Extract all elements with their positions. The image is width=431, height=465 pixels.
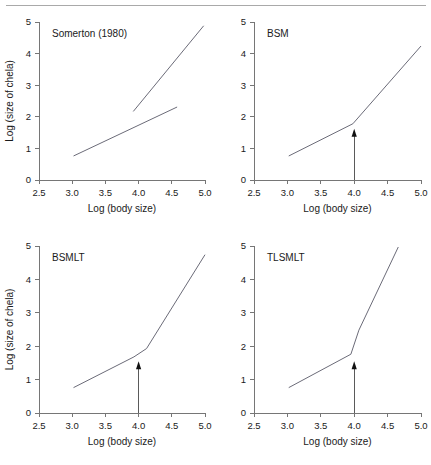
y-tick-label: 1 (241, 143, 246, 154)
axis-lines (39, 246, 205, 413)
x-tick-label: 5.0 (414, 420, 427, 431)
y-tick-label: 4 (26, 274, 31, 285)
y-tick-label: 5 (26, 16, 31, 27)
y-tick-label: 3 (241, 307, 246, 318)
y-tick-label: 3 (241, 80, 246, 91)
x-tick-label: 2.5 (247, 187, 260, 198)
y-axis-title: Log (size of chela) (4, 60, 15, 142)
x-tick-label: 4.0 (348, 420, 361, 431)
x-tick-label: 4.0 (348, 187, 361, 198)
x-tick-label: 5.0 (414, 187, 427, 198)
y-tick-label: 0 (26, 174, 31, 185)
panel-tlsmlt-plot: 0123452.53.03.54.04.55.0Log (body size)T… (215, 232, 431, 465)
x-axis-title: Log (body size) (303, 436, 371, 447)
header-rule (6, 5, 426, 6)
panel-bsmlt-plot: 0123452.53.03.54.04.55.0Log (body size)L… (0, 232, 215, 465)
data-series-line (289, 247, 399, 388)
panel-tlsmlt: 0123452.53.03.54.04.55.0Log (body size)T… (215, 232, 431, 465)
x-tick-label: 4.5 (165, 187, 178, 198)
panel-bsm: 0123452.53.03.54.04.55.0Log (body size)B… (215, 8, 431, 232)
y-tick-label: 1 (26, 374, 31, 385)
x-tick-label: 4.0 (132, 420, 145, 431)
y-tick-label: 3 (26, 80, 31, 91)
x-axis-title: Log (body size) (88, 436, 156, 447)
x-tick-label: 3.5 (99, 420, 112, 431)
axis-lines (254, 22, 421, 180)
x-tick-label: 3.0 (281, 187, 294, 198)
y-tick-label: 0 (241, 407, 246, 418)
panel-somerton-plot: 0123452.53.03.54.04.55.0Log (body size)L… (0, 8, 215, 232)
y-tick-label: 3 (26, 307, 31, 318)
y-tick-label: 4 (241, 48, 246, 59)
y-tick-label: 2 (26, 341, 31, 352)
data-series-line (74, 107, 178, 156)
panel-title: BSMLT (52, 252, 85, 263)
panel-title: BSM (267, 28, 289, 39)
y-tick-label: 0 (26, 407, 31, 418)
breakpoint-arrow-head (352, 361, 357, 369)
x-axis-title: Log (body size) (303, 203, 371, 214)
y-tick-label: 1 (241, 374, 246, 385)
y-tick-label: 5 (241, 240, 246, 251)
x-tick-label: 3.5 (99, 187, 112, 198)
y-tick-label: 4 (26, 48, 31, 59)
panel-bsmlt: 0123452.53.03.54.04.55.0Log (body size)L… (0, 232, 215, 465)
x-tick-label: 4.5 (381, 420, 394, 431)
x-tick-label: 4.0 (132, 187, 145, 198)
panel-bsm-plot: 0123452.53.03.54.04.55.0Log (body size)B… (215, 8, 431, 232)
y-tick-label: 1 (26, 143, 31, 154)
axis-lines (39, 22, 205, 180)
panel-title: TLSMLT (267, 252, 305, 263)
figure-panel-grid: 0123452.53.03.54.04.55.0Log (body size)L… (0, 8, 431, 465)
y-axis-title: Log (size of chela) (4, 289, 15, 371)
x-tick-label: 3.5 (314, 187, 327, 198)
breakpoint-arrow-head (136, 361, 141, 369)
x-tick-label: 4.5 (165, 420, 178, 431)
x-tick-label: 3.0 (66, 187, 79, 198)
y-tick-label: 2 (241, 111, 246, 122)
x-tick-label: 5.0 (198, 420, 211, 431)
x-tick-label: 5.0 (198, 187, 211, 198)
panel-title: Somerton (1980) (52, 28, 127, 39)
y-tick-label: 2 (26, 111, 31, 122)
y-tick-label: 4 (241, 274, 246, 285)
data-series-line (289, 46, 421, 156)
y-tick-label: 5 (241, 16, 246, 27)
x-tick-label: 2.5 (247, 420, 260, 431)
x-tick-label: 2.5 (32, 420, 45, 431)
x-tick-label: 4.5 (381, 187, 394, 198)
x-tick-label: 3.0 (66, 420, 79, 431)
data-series-line (133, 26, 203, 112)
panel-somerton: 0123452.53.03.54.04.55.0Log (body size)L… (0, 8, 215, 232)
x-tick-label: 3.0 (281, 420, 294, 431)
x-tick-label: 2.5 (32, 187, 45, 198)
axis-lines (254, 246, 421, 413)
y-tick-label: 5 (26, 240, 31, 251)
breakpoint-arrow-head (352, 129, 357, 137)
x-tick-label: 3.5 (314, 420, 327, 431)
y-tick-label: 2 (241, 341, 246, 352)
x-axis-title: Log (body size) (88, 203, 156, 214)
y-tick-label: 0 (241, 174, 246, 185)
